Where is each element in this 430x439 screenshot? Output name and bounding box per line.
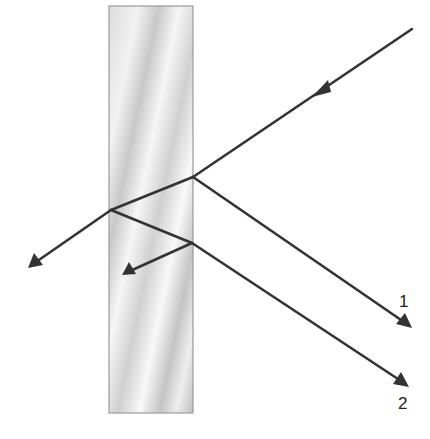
transmitted-ray bbox=[36, 210, 111, 262]
reflected-ray-2 bbox=[192, 243, 401, 381]
ray-1-arrow-icon bbox=[396, 313, 412, 328]
ray-2-label: 2 bbox=[398, 395, 407, 412]
glass-slab-reflection-diagram bbox=[0, 0, 430, 439]
incident-ray bbox=[193, 29, 412, 177]
reflected-ray-1 bbox=[193, 177, 404, 322]
glass-slab bbox=[109, 6, 193, 413]
ray-2-arrow-icon bbox=[393, 372, 409, 387]
transmitted-arrow-icon bbox=[28, 253, 43, 268]
ray-1-label: 1 bbox=[399, 293, 408, 310]
incident-arrow-icon bbox=[312, 80, 331, 97]
